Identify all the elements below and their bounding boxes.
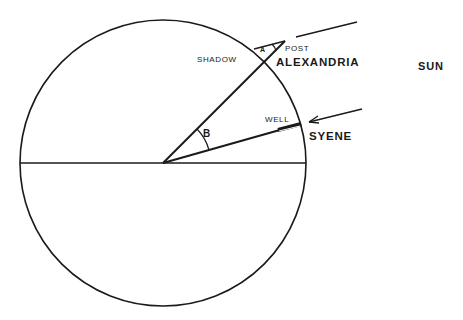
shadow-label: SHADOW [197,56,237,64]
well-label: WELL [265,116,289,124]
syene-label: SYENE [309,131,352,143]
angle-a-label: A [260,46,266,53]
angle-b-label: B [203,129,210,139]
sun-label: SUN [418,61,444,72]
eratosthenes-diagram: SHADOW A POST ALEXANDRIA SUN WELL B SYEN… [0,0,463,320]
sun-ray-alexandria [296,22,357,37]
angle-a-arc [272,44,276,51]
diagram-drawing [0,0,463,320]
alexandria-label: ALEXANDRIA [276,57,359,69]
sun-ray-syene [309,109,362,122]
post-label: POST [285,45,309,53]
